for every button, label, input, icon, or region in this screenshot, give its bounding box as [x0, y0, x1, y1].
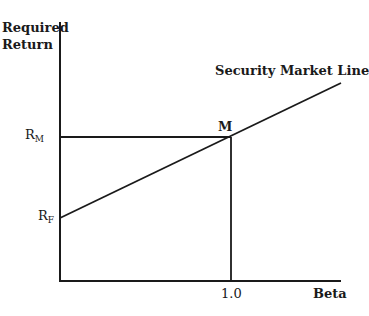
- tick-label-1: 1.0: [221, 286, 242, 301]
- point-m-label: M: [218, 119, 232, 134]
- security-market-line: [60, 83, 341, 218]
- rf-label: RF: [38, 208, 54, 225]
- rm-label: RM: [25, 127, 44, 144]
- y-axis-label-line1: Required: [2, 20, 69, 35]
- x-axis-label: Beta: [313, 286, 347, 301]
- rm-label-sub: M: [35, 134, 44, 144]
- sml-label: Security Market Line: [215, 63, 369, 78]
- rf-label-main: R: [38, 208, 48, 223]
- y-axis-label-line2: Return: [2, 37, 53, 52]
- rf-label-sub: F: [48, 215, 54, 225]
- rm-label-main: R: [25, 127, 35, 142]
